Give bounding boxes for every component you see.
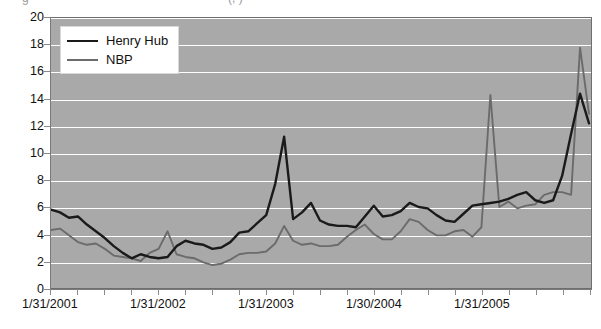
chart-title-fragment-right: (, ) (228, 0, 243, 5)
x-axis-tick-mark (563, 289, 564, 295)
y-axis-tick-label: 16 (0, 64, 44, 78)
chart-title-fragment-left: g (22, 0, 29, 5)
x-axis-tick-mark (239, 289, 240, 295)
y-axis-tick-label: 0 (0, 282, 44, 296)
y-axis-tick-label: 12 (0, 119, 44, 133)
x-axis-tick-label: 1/31/2003 (238, 297, 294, 311)
y-axis-tick-label: 6 (0, 200, 44, 214)
x-axis-tick-mark (104, 289, 105, 295)
x-axis-tick-label: 1/31/2002 (130, 297, 186, 311)
y-axis-labels: 02468101214161820 (0, 17, 44, 289)
x-axis-tick-mark (185, 289, 186, 295)
x-axis-tick-label: 1/31/2001 (22, 297, 78, 311)
legend-label-nbp: NBP (106, 53, 133, 66)
x-axis-tick-mark (320, 289, 321, 295)
x-axis-tick-mark (50, 289, 51, 295)
y-axis-tick-label: 8 (0, 173, 44, 187)
x-axis-tick-mark (455, 289, 456, 295)
x-axis-tick-mark (158, 289, 159, 295)
x-axis-tick-mark (131, 289, 132, 295)
x-axis-tick-mark (590, 289, 591, 295)
x-axis-tick-mark (401, 289, 402, 295)
series-line-henry-hub (51, 94, 589, 259)
x-axis-tick-mark (482, 289, 483, 295)
y-axis-tick-label: 14 (0, 92, 44, 106)
y-axis-tick-label: 10 (0, 146, 44, 160)
x-axis-tick-label: 1/31/2005 (454, 297, 510, 311)
gas-price-line-chart: g (, ) 02468101214161820 1/31/20011/31/2… (0, 0, 601, 329)
series-line-nbp (51, 48, 589, 265)
x-axis-tick-mark (536, 289, 537, 295)
y-axis-tick-label: 18 (0, 37, 44, 51)
x-axis-tick-mark (212, 289, 213, 295)
legend-swatch-henry-hub (67, 40, 98, 42)
legend-label-henry-hub: Henry Hub (106, 34, 168, 47)
y-axis-tick-label: 2 (0, 255, 44, 269)
legend-swatch-nbp (67, 59, 98, 61)
x-axis-labels: 1/31/20011/31/20021/31/20031/30/20041/31… (0, 297, 601, 317)
y-axis-tick-label: 20 (0, 10, 44, 24)
legend-item-nbp: NBP (67, 50, 168, 69)
y-axis-tick-label: 4 (0, 228, 44, 242)
y-axis-line (50, 17, 51, 290)
chart-legend: Henry Hub NBP (60, 26, 179, 74)
x-axis-tick-mark (266, 289, 267, 295)
x-axis-tick-mark (374, 289, 375, 295)
x-axis-tick-mark (77, 289, 78, 295)
x-axis-tick-mark (293, 289, 294, 295)
x-axis-tick-mark (347, 289, 348, 295)
x-axis-tick-mark (428, 289, 429, 295)
x-axis-tick-label: 1/30/2004 (346, 297, 402, 311)
x-axis-tick-mark (509, 289, 510, 295)
chart-title-cropped: g (, ) (0, 0, 601, 7)
legend-item-henry-hub: Henry Hub (67, 31, 168, 50)
